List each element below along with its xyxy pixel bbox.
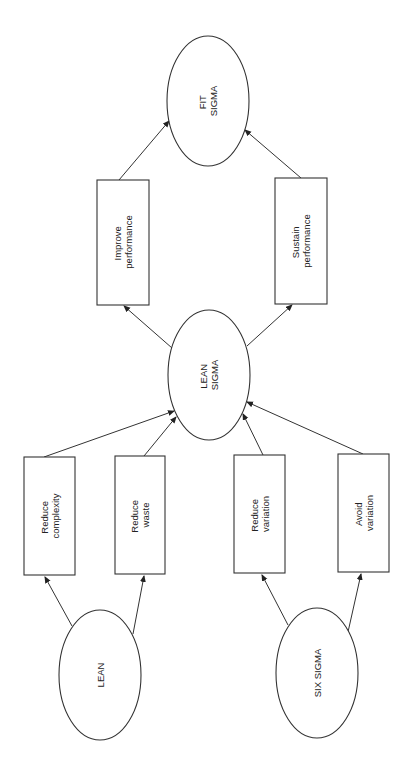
lean-sigma-label-line1: LEAN <box>198 364 209 389</box>
edge-reduce-waste-to-lean-sigma <box>144 417 176 456</box>
node-lean: LEAN <box>59 610 141 740</box>
fit-sigma-label-line2: SIGMA <box>208 85 219 116</box>
lean-label: LEAN <box>95 662 106 687</box>
reduce-complexity-label-line1: Reduce <box>39 501 50 534</box>
node-six-sigma: SIX SIGMA <box>276 608 358 738</box>
node-lean-sigma: LEAN SIGMA <box>168 310 250 440</box>
reduce-waste-label-line2: waste <box>140 503 151 529</box>
node-fit-sigma: FIT SIGMA <box>167 36 249 166</box>
node-avoid-variation: Avoid variation <box>338 454 389 572</box>
edge-lean-to-reduce-complexity <box>45 577 72 626</box>
avoid-variation-label-line2: variation <box>364 495 375 531</box>
edge-six-sigma-to-avoid-variation <box>348 574 361 632</box>
fit-sigma-label-line1: FIT <box>197 95 208 109</box>
reduce-variation-label-line1: Reduce <box>249 499 260 532</box>
svg-text:LEAN SIGMA: LEAN SIGMA <box>198 359 220 390</box>
edge-six-sigma-to-reduce-variation <box>262 575 288 625</box>
node-improve-performance: Improve performance <box>97 180 149 305</box>
edge-sustain-performance-to-fit-sigma <box>245 130 301 178</box>
svg-text:LEAN: LEAN <box>95 662 106 687</box>
svg-text:Reduce variation: Reduce variation <box>249 496 271 532</box>
node-reduce-waste: Reduce waste <box>115 456 165 574</box>
improve-performance-label-line1: Improve <box>112 226 123 260</box>
sustain-performance-label-line1: Sustain <box>290 226 301 258</box>
edge-lean-to-reduce-waste <box>133 576 144 634</box>
svg-text:Reduce waste: Reduce waste <box>129 497 151 532</box>
edge-avoid-variation-to-lean-sigma <box>247 402 363 454</box>
lean-fit-sigma-diagram: FIT SIGMA Improve performance Sustain pe… <box>0 0 403 769</box>
edge-reduce-complexity-to-lean-sigma <box>44 411 174 457</box>
avoid-variation-label-line1: Avoid <box>353 503 364 527</box>
reduce-variation-label-line2: variation <box>260 496 271 532</box>
six-sigma-label: SIX SIGMA <box>312 648 323 697</box>
lean-sigma-label-line2: SIGMA <box>209 359 220 390</box>
sustain-performance-label-line2: performance <box>301 214 312 267</box>
improve-performance-label-line2: performance <box>123 215 134 268</box>
reduce-complexity-label-line2: complexity <box>50 493 61 538</box>
svg-text:Reduce complexity: Reduce complexity <box>39 493 61 538</box>
edge-improve-performance-to-fit-sigma <box>119 121 169 180</box>
node-reduce-variation: Reduce variation <box>234 455 285 573</box>
node-sustain-performance: Sustain performance <box>275 178 327 304</box>
edge-lean-sigma-to-sustain-performance <box>247 305 292 346</box>
edge-lean-sigma-to-improve-performance <box>124 306 172 348</box>
node-reduce-complexity: Reduce complexity <box>24 457 75 575</box>
svg-text:SIX SIGMA: SIX SIGMA <box>312 648 323 697</box>
svg-text:Avoid variation: Avoid variation <box>353 495 375 531</box>
reduce-waste-label-line1: Reduce <box>129 500 140 533</box>
edge-reduce-variation-to-lean-sigma <box>243 414 263 455</box>
